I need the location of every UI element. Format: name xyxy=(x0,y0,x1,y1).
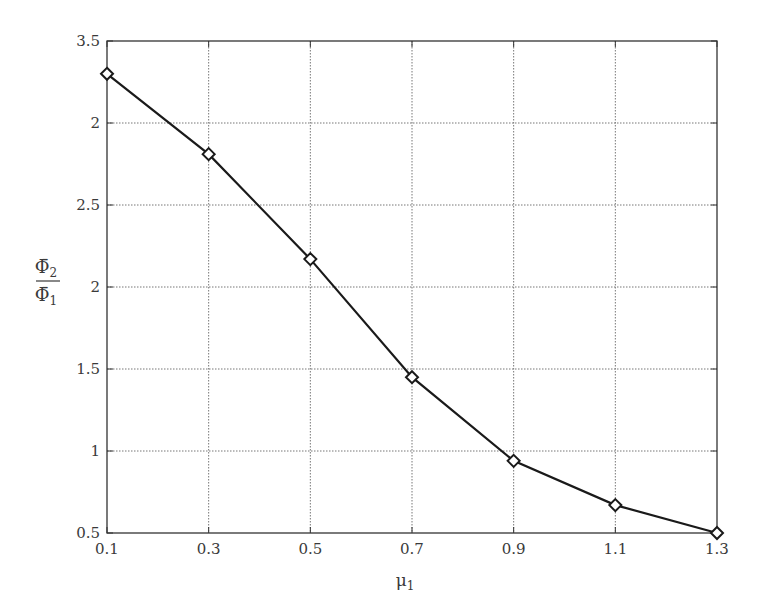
y-label-num-main: Φ̄ xyxy=(35,256,50,277)
y-axis-tick-labels: 0.511.522.523.5 xyxy=(76,32,100,542)
x-tick-label: 1.3 xyxy=(705,540,729,558)
x-tick-label: 0.3 xyxy=(197,540,221,558)
diamond-marker xyxy=(711,527,723,539)
y-tick-label: 1.5 xyxy=(76,360,100,378)
y-axis-label-denominator: Φ̄1 xyxy=(35,284,57,308)
x-tick-label: 0.7 xyxy=(400,540,424,558)
grid-lines xyxy=(107,41,717,533)
y-label-den-main: Φ̄ xyxy=(35,284,50,305)
x-axis-label-main: μ xyxy=(396,570,407,590)
y-axis-label-numerator: Φ̄2 xyxy=(35,256,57,280)
y-tick-label: 3.5 xyxy=(76,32,100,50)
y-tick-label: 2 xyxy=(90,114,100,132)
line-chart: 0.10.30.50.70.91.11.3 0.511.522.523.5 μ1… xyxy=(0,0,764,615)
y-label-num-sub: 2 xyxy=(50,266,58,280)
y-label-den-sub: 1 xyxy=(50,294,58,308)
x-axis-label: μ1 xyxy=(396,570,415,593)
x-tick-label: 0.1 xyxy=(95,540,119,558)
y-axis-label: Φ̄2 Φ̄1 xyxy=(35,256,60,308)
x-tick-label: 0.9 xyxy=(502,540,526,558)
y-tick-label: 2 xyxy=(90,278,100,296)
x-axis-label-sub: 1 xyxy=(407,579,415,593)
y-tick-label: 1 xyxy=(90,442,100,460)
x-axis-tick-labels: 0.10.30.50.70.91.11.3 xyxy=(95,540,729,558)
diamond-marker xyxy=(609,499,621,511)
y-tick-label: 2.5 xyxy=(76,196,100,214)
x-tick-label: 1.1 xyxy=(603,540,627,558)
x-tick-label: 0.5 xyxy=(298,540,322,558)
y-tick-label: 0.5 xyxy=(76,524,100,542)
